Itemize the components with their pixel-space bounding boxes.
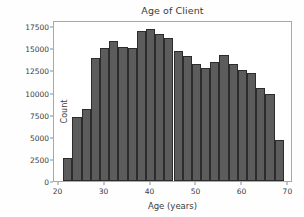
x-tick-label: 30 bbox=[99, 187, 109, 196]
y-tick-label: 5000 bbox=[30, 133, 49, 142]
x-tick-label: 40 bbox=[145, 187, 155, 196]
y-tick-mark bbox=[50, 49, 53, 50]
y-tick-label: 10000 bbox=[25, 89, 49, 98]
y-axis-label: Count bbox=[60, 57, 69, 167]
x-tick-label: 20 bbox=[53, 187, 63, 196]
y-tick-label: 0 bbox=[44, 178, 49, 187]
y-tick-mark bbox=[50, 27, 53, 28]
axis-ticks: 025005000750010000125001500017500 203040… bbox=[53, 21, 292, 182]
x-tick-mark bbox=[241, 182, 242, 185]
chart-title: Age of Client bbox=[53, 5, 292, 16]
x-tick-label: 50 bbox=[191, 187, 201, 196]
y-tick-mark bbox=[50, 137, 53, 138]
y-tick-mark bbox=[50, 182, 53, 183]
x-tick-mark bbox=[57, 182, 58, 185]
y-tick-label: 2500 bbox=[30, 155, 49, 164]
y-tick-mark bbox=[50, 71, 53, 72]
x-tick-mark bbox=[287, 182, 288, 185]
y-tick-label: 7500 bbox=[30, 111, 49, 120]
y-tick-mark bbox=[50, 93, 53, 94]
x-tick-label: 60 bbox=[237, 187, 247, 196]
y-tick-mark bbox=[50, 159, 53, 160]
x-tick-mark bbox=[149, 182, 150, 185]
x-tick-label: 70 bbox=[283, 187, 293, 196]
y-tick-mark bbox=[50, 115, 53, 116]
y-tick-label: 12500 bbox=[25, 67, 49, 76]
y-tick-label: 17500 bbox=[25, 23, 49, 32]
figure-canvas: Age of Client 02500500075001000012500150… bbox=[0, 0, 304, 217]
y-tick-label: 15000 bbox=[25, 45, 49, 54]
x-tick-mark bbox=[195, 182, 196, 185]
x-axis-label: Age (years) bbox=[53, 201, 292, 211]
x-tick-mark bbox=[103, 182, 104, 185]
